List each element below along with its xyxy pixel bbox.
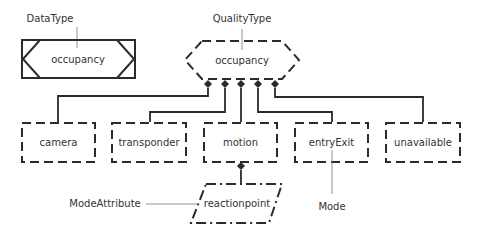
edge-transponder <box>150 88 225 122</box>
child-node-text: unavailable <box>394 137 452 148</box>
edge-entryexit <box>258 88 332 122</box>
qualitytype-node-text: occupancy <box>215 55 269 66</box>
child-node-transponder[interactable]: transponder <box>112 123 186 162</box>
reactionpoint-node-text: reactionpoint <box>204 198 270 209</box>
child-node-text: transponder <box>118 137 180 148</box>
child-node-unavailable[interactable]: unavailable <box>386 123 460 162</box>
child-node-motion[interactable]: motion <box>204 123 277 162</box>
diamond-icon <box>237 80 245 88</box>
datatype-label: DataType <box>27 13 74 24</box>
diamond-icon <box>237 162 245 170</box>
datatype-occupancy-node[interactable]: occupancy <box>22 40 135 78</box>
diamond-icon <box>271 80 279 88</box>
diamond-icon <box>254 80 262 88</box>
diamond-icon <box>204 80 212 88</box>
edge-motion-reactionpoint <box>237 162 245 184</box>
child-node-camera[interactable]: camera <box>22 123 95 162</box>
edge-camera <box>58 88 208 122</box>
child-node-text: camera <box>40 137 78 148</box>
qualitytype-label: QualityType <box>213 13 272 24</box>
mode-label: Mode <box>318 201 345 212</box>
datatype-node-text: occupancy <box>51 54 105 65</box>
modeattribute-label: ModeAttribute <box>69 198 140 209</box>
child-node-entryexit[interactable]: entryExit <box>295 123 368 162</box>
edge-unavailable <box>275 88 423 122</box>
diamond-icon <box>221 80 229 88</box>
composition-diamonds <box>204 80 279 88</box>
child-node-text: entryExit <box>309 137 354 148</box>
child-node-text: motion <box>223 137 258 148</box>
diagram-canvas: DataType occupancy QualityType occupancy… <box>0 0 480 237</box>
modeattribute-reactionpoint-node[interactable]: reactionpoint <box>191 184 282 223</box>
connector-lines <box>58 88 423 122</box>
